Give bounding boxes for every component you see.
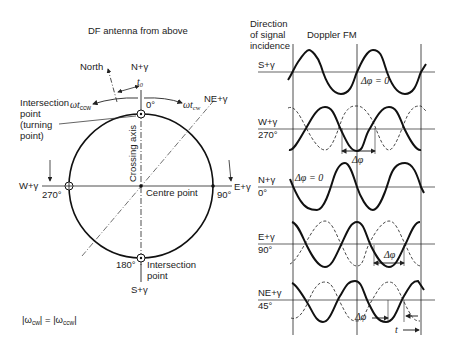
row-deg-n: 0°	[258, 187, 267, 198]
north-arrow	[108, 69, 117, 102]
row-deg-w: 270°	[258, 129, 278, 140]
centre-point-dot	[139, 184, 143, 188]
omega-cw-label: ωtcw	[183, 99, 201, 111]
ne-delta-phi-label: Δφ	[354, 311, 367, 322]
bottom-intersection-label-2: point	[147, 270, 168, 281]
omega-equality-formula: |ωcw| = |ωccw|	[22, 314, 77, 326]
row-label-ne: NE+γ	[258, 287, 282, 298]
time-label: t	[395, 324, 398, 335]
top-intersection-dot	[140, 113, 142, 115]
n-gamma-label: N+γ	[131, 61, 148, 72]
intersection-label-2: point	[20, 108, 41, 119]
intersection-leader-line	[59, 116, 136, 124]
row-label-w: W+γ	[258, 116, 278, 127]
n-delta-phi-label: Δφ = 0	[294, 172, 323, 183]
omega-ccw-label: ωtccw	[70, 99, 91, 111]
intersection-label-3: (turning	[20, 119, 52, 130]
gamma-angle-arrow	[118, 86, 139, 92]
deg-0-label: 0°	[146, 99, 155, 110]
direction-header-2: of signal	[250, 29, 285, 40]
deg-180-label: 180°	[116, 259, 136, 270]
doppler-fm-panel: Direction of signal incidence Doppler FM…	[250, 18, 435, 335]
df-antenna-panel: DF antenna from above Centre point Cross…	[19, 25, 251, 326]
ccw-arc-arrow	[93, 98, 138, 104]
e-delta-phi-label: Δφ	[383, 249, 396, 260]
e-gamma-label: E+γ	[234, 181, 251, 192]
row-deg-ne: 45°	[258, 300, 273, 311]
deg-90-label: 90°	[217, 189, 232, 200]
t0-label: t₀	[137, 76, 144, 87]
north-label: North	[80, 61, 103, 72]
df-doppler-diagram: DF antenna from above Centre point Cross…	[0, 0, 450, 345]
crossing-axis-label: Crossing axis	[127, 125, 138, 182]
row-label-s: S+γ	[258, 59, 275, 70]
east-marker	[211, 184, 215, 188]
row-deg-e: 90°	[258, 244, 273, 255]
w-delta-phi-label: Δφ	[351, 154, 364, 165]
s-gamma-label: S+γ	[131, 284, 148, 295]
direction-header-3: incidence	[250, 40, 290, 51]
direction-header-1: Direction	[250, 18, 288, 29]
doppler-title: Doppler FM	[307, 29, 357, 40]
s-delta-phi-label: Δφ = 0	[360, 75, 389, 86]
deg-270-label: 270°	[42, 189, 62, 200]
centre-point-label: Centre point	[146, 187, 198, 198]
row-label-n: N+γ	[258, 174, 275, 185]
wave-e-dashed	[290, 221, 421, 266]
intersection-label-1: Intersection	[20, 97, 69, 108]
ne-gamma-label: NE+γ	[204, 93, 228, 104]
east-arrow	[229, 160, 231, 181]
antenna-title: DF antenna from above	[88, 25, 188, 36]
bottom-intersection-label-1: Intersection	[147, 259, 196, 270]
row-label-e: E+γ	[258, 231, 275, 242]
w-gamma-label: W+γ	[19, 180, 39, 191]
wave-e-solid	[292, 222, 420, 267]
bottom-intersection-dot	[140, 257, 142, 259]
intersection-label-4: point)	[20, 130, 44, 141]
